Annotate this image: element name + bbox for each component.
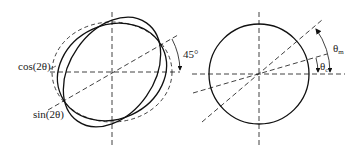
right-panel: θm θc [192,12,345,146]
left-panel: 45° cos(2θ) sin(2θ) [18,0,198,146]
angle-arc-theta-c [316,58,318,72]
label-sin: sin(2θ) [33,108,64,121]
label-45: 45° [183,48,198,60]
cos-leader [50,66,56,69]
diagram-canvas: 45° cos(2θ) sin(2θ) θm θc [0,0,362,156]
diagonal-theta-m [202,20,322,122]
label-cos: cos(2θ) [18,60,51,73]
label-theta-c: θc [320,60,328,74]
label-theta-m: θm [333,42,344,56]
angle-arc-45 [172,39,180,70]
